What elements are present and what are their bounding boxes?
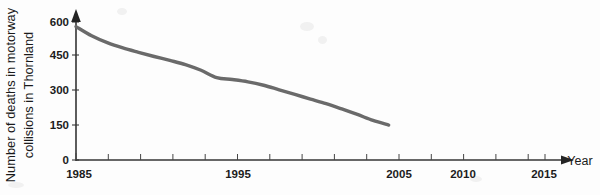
chart-screenshot: Number of deaths in motorway collisions … — [0, 0, 600, 195]
line-chart: Number of deaths in motorway collisions … — [0, 0, 600, 195]
x-axis-tick-labels: 1985 1995 2005 2010 2015 — [66, 168, 557, 180]
y-tick-label-600: 600 — [50, 16, 69, 28]
data-series-line — [76, 27, 389, 125]
x-tick-label-2015: 2015 — [531, 168, 557, 180]
x-tick-label-2005: 2005 — [386, 168, 412, 180]
y-tick-label-450: 450 — [50, 49, 69, 61]
x-axis-ticks — [76, 153, 545, 160]
y-axis-arrow-icon — [71, 9, 81, 22]
x-tick-label-1985: 1985 — [66, 168, 92, 180]
x-tick-label-1995: 1995 — [225, 168, 251, 180]
y-axis-tick-labels: 0 150 300 450 600 — [50, 16, 69, 166]
y-axis-title: Number of deaths in motorway collisions … — [3, 7, 36, 182]
y-tick-label-300: 300 — [50, 84, 69, 96]
x-tick-label-2010: 2010 — [450, 168, 476, 180]
y-axis-title-line1: Number of deaths in motorway — [3, 7, 18, 182]
y-tick-label-150: 150 — [50, 119, 69, 131]
x-axis — [76, 155, 574, 164]
y-axis — [71, 9, 81, 161]
x-axis-title: Year — [567, 154, 592, 168]
y-axis-title-line2: collisions in Thornland — [21, 32, 36, 158]
y-tick-label-0: 0 — [63, 154, 69, 166]
